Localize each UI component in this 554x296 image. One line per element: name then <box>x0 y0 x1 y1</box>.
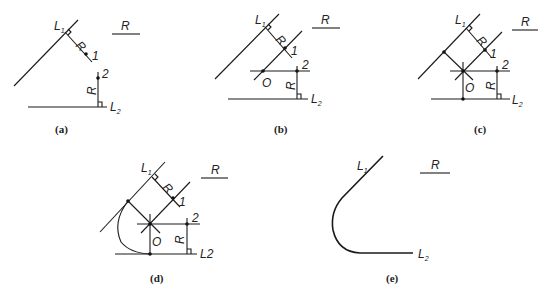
L2-label: L2 <box>418 247 429 262</box>
point-2-label: 2 <box>191 211 199 225</box>
panel-b: R L1 R 1 2 O R L2 (b) <box>215 13 340 136</box>
point-1-label: 1 <box>291 44 298 58</box>
right-angle-mark <box>497 94 501 99</box>
right-angle-mark <box>68 29 71 35</box>
R-label-vert: R <box>85 86 99 95</box>
fillet-result-curve <box>332 156 413 253</box>
panel-e: R L1 L2 (e) <box>332 156 450 285</box>
caption-a: (a) <box>55 123 68 136</box>
radius-label: R <box>321 13 330 27</box>
point-1-label: 1 <box>92 49 99 63</box>
right-angle-mark <box>268 24 271 30</box>
L1-label: L1 <box>455 13 466 28</box>
right-angle-mark <box>297 94 301 99</box>
right-angle-mark <box>187 249 191 254</box>
R-label-vert: R <box>173 235 187 244</box>
point-2 <box>96 76 100 80</box>
O-label: O <box>262 76 271 90</box>
tangent-point-L2 <box>461 97 465 101</box>
panel-a: R L1 R 1 2 R L2 (a) <box>14 19 140 136</box>
caption-c: (c) <box>474 123 487 136</box>
point-1 <box>84 52 88 56</box>
center-O <box>461 69 465 73</box>
panel-c: R L1 R 1 2 O R L2 (c) <box>418 13 538 136</box>
line-L1 <box>100 162 165 232</box>
line-L1 <box>215 14 279 79</box>
point-2-label: 2 <box>501 58 509 72</box>
R-label-vert: R <box>284 81 298 90</box>
radius-label: R <box>211 163 220 177</box>
R-label-perp: R <box>73 38 89 54</box>
fillet-construction-diagram: R L1 R 1 2 R L2 (a) R L1 R 1 2 O R L2 (b… <box>0 0 554 296</box>
point-2-label: 2 <box>301 58 309 72</box>
point-1-label: 1 <box>179 195 186 209</box>
perp-O-to-L1 <box>128 201 160 233</box>
center-O <box>148 222 152 226</box>
caption-d: (d) <box>150 272 164 285</box>
L2-label: L2 <box>200 247 214 261</box>
L1-label: L1 <box>255 13 266 28</box>
point-1-label: 1 <box>490 47 497 61</box>
L2-label: L2 <box>512 93 523 108</box>
radius-label: R <box>521 15 530 29</box>
line-L1 <box>418 14 480 79</box>
R-label-perp: R <box>160 180 176 196</box>
tangent-point-L1 <box>442 50 446 54</box>
L1-label: L1 <box>357 159 368 174</box>
caption-b: (b) <box>274 123 288 136</box>
L1-label: L1 <box>54 19 65 34</box>
fillet-arc <box>118 201 150 254</box>
right-angle-mark <box>155 174 158 180</box>
right-angle-mark <box>469 25 472 31</box>
panel-d: R L1 R 1 2 O R L2 (d) <box>100 161 228 285</box>
L2-label: L2 <box>311 92 322 107</box>
radius-label: R <box>121 19 130 33</box>
caption-e: (e) <box>386 272 399 285</box>
L2-label: L2 <box>110 100 121 115</box>
center-O <box>261 69 265 73</box>
right-angle-mark <box>98 102 102 107</box>
L1-label: L1 <box>141 161 152 176</box>
radius-label: R <box>431 158 440 172</box>
O-label: O <box>152 235 161 249</box>
R-label-vert: R <box>484 81 498 90</box>
point-2-label: 2 <box>101 67 109 81</box>
O-label: O <box>465 81 474 95</box>
